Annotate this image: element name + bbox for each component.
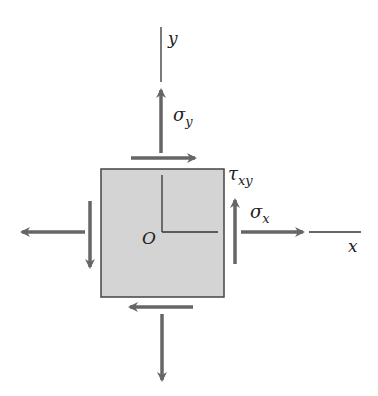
sigma-x-label: σx (250, 201, 270, 226)
y-axis-label: y (167, 28, 178, 48)
tau-xy-label: τxy (228, 163, 253, 188)
x-axis-label: x (348, 236, 358, 256)
origin-label: O (142, 228, 156, 248)
stress-element-diagram: y x O σy τxy σx (0, 0, 378, 396)
sigma-y-label: σy (173, 104, 193, 129)
